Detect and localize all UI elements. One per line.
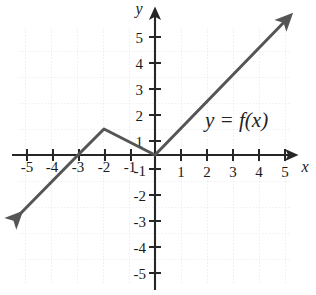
y-tick-label-3: 3 — [136, 82, 144, 98]
x-tick-label-2: 2 — [203, 164, 211, 180]
x-tick-label--2: -2 — [98, 159, 111, 175]
y-tick-label--3: -3 — [134, 214, 147, 230]
coordinate-plane-svg: -5 -4 -3 -2 -1 1 2 3 4 5 5 4 3 2 1 -1 -2… — [0, 0, 316, 295]
x-tick-label--4: -4 — [46, 159, 59, 175]
y-tick-label--5: -5 — [134, 266, 147, 282]
x-tick-label--5: -5 — [21, 159, 34, 175]
x-tick-label-1: 1 — [177, 164, 185, 180]
function-label: y = f(x) — [203, 108, 268, 132]
x-tick-label-4: 4 — [255, 164, 263, 180]
y-tick-label-4: 4 — [136, 56, 144, 72]
y-axis-label: y — [133, 0, 143, 18]
x-tick-label-3: 3 — [229, 164, 237, 180]
x-axis-label: x — [300, 158, 308, 175]
y-tick-label--1: -1 — [134, 163, 147, 179]
y-tick-label--4: -4 — [134, 240, 147, 256]
y-tick-label--2: -2 — [134, 188, 147, 204]
y-tick-label-5: 5 — [136, 30, 144, 46]
graph-figure: -5 -4 -3 -2 -1 1 2 3 4 5 5 4 3 2 1 -1 -2… — [0, 0, 316, 295]
y-tick-label-2: 2 — [136, 108, 144, 124]
x-tick-label-5: 5 — [281, 164, 289, 180]
